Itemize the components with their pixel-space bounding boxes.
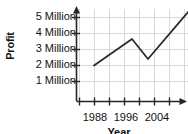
y-axis-title: Profit bbox=[4, 16, 16, 76]
x-tick-label-1996: 1996 bbox=[110, 111, 142, 123]
x-axis-title: Year bbox=[76, 126, 162, 134]
horizontal-gridlines bbox=[76, 18, 188, 82]
data-line-profit bbox=[94, 12, 188, 66]
y-tick-label-5: 5 Million bbox=[18, 11, 76, 22]
x-tick-label-1988: 1988 bbox=[79, 111, 111, 123]
y-tick-label-4: 4 Million bbox=[18, 27, 76, 38]
vertical-gridlines bbox=[80, 9, 185, 101]
y-tick-label-1: 1 Million bbox=[18, 75, 76, 86]
y-tick-label-3: 3 Million bbox=[18, 43, 76, 54]
y-tick-label-2: 2 Million bbox=[18, 59, 76, 70]
y-axis-tick-labels: 5 Million 4 Million 3 Million 2 Million … bbox=[18, 11, 76, 99]
x-tick-label-2004: 2004 bbox=[141, 111, 173, 123]
x-axis bbox=[77, 98, 188, 105]
line-chart: Profit 5 Million 4 Million 3 Million 2 M… bbox=[0, 0, 188, 134]
x-axis-tick-labels: 1988 1996 2004 bbox=[0, 111, 188, 124]
